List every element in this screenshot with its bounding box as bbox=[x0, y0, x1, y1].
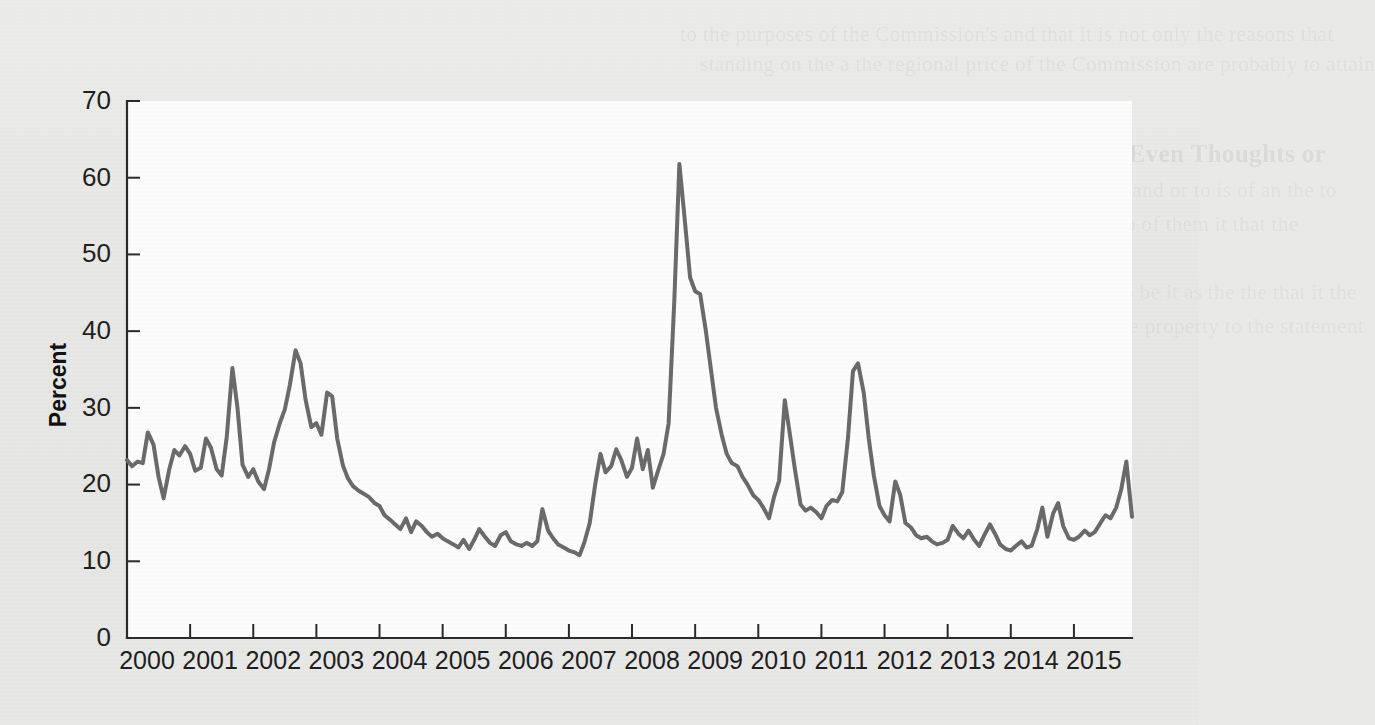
x-axis-tick-label: 2012 bbox=[877, 646, 933, 674]
y-axis-tick-label: 40 bbox=[82, 315, 111, 345]
x-axis-tick-label: 2006 bbox=[498, 646, 554, 674]
x-axis-tick-label: 2003 bbox=[309, 646, 365, 674]
x-axis-tick-label: 2014 bbox=[1003, 646, 1059, 674]
y-axis-title: Percent bbox=[45, 342, 71, 427]
y-axis-tick-label: 70 bbox=[82, 85, 111, 115]
x-axis-tick-label: 2010 bbox=[750, 646, 806, 674]
x-axis-tick-label: 2013 bbox=[940, 646, 996, 674]
x-axis-tick-label: 2008 bbox=[624, 646, 680, 674]
x-axis-tick-label: 2005 bbox=[435, 646, 491, 674]
x-axis-tick-label: 2002 bbox=[245, 646, 301, 674]
y-axis-tick-label: 20 bbox=[82, 468, 111, 498]
y-axis: 010203040506070 bbox=[82, 85, 140, 652]
x-axis-tick-label: 2004 bbox=[372, 646, 428, 674]
y-axis-tick-label: 60 bbox=[82, 162, 111, 192]
x-axis-tick-label: 2000 bbox=[119, 646, 175, 674]
x-axis-tick-label: 2011 bbox=[815, 646, 869, 674]
y-axis-tick-label: 10 bbox=[82, 545, 111, 575]
y-axis-tick-label: 30 bbox=[82, 392, 111, 422]
x-axis-tick-label: 2015 bbox=[1066, 646, 1122, 674]
x-axis-tick-label: 2009 bbox=[687, 646, 743, 674]
y-axis-tick-label: 0 bbox=[97, 622, 111, 652]
series-line-percent bbox=[127, 164, 1132, 555]
x-axis: 2000200120022003200420052006200720082009… bbox=[119, 624, 1132, 674]
x-axis-tick-label: 2001 bbox=[182, 646, 238, 674]
y-axis-tick-label: 50 bbox=[82, 238, 111, 268]
x-axis-tick-label: 2007 bbox=[561, 646, 617, 674]
